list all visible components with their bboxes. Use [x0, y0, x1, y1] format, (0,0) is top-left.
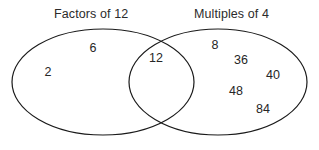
- venn-diagram: Factors of 12 Multiples of 4 62128364048…: [0, 0, 319, 150]
- venn-member-right-only-8: 8: [212, 38, 219, 52]
- set-label-left: Factors of 12: [54, 7, 128, 21]
- venn-member-right-only-48: 48: [229, 84, 243, 98]
- venn-member-right-only-84: 84: [256, 102, 270, 116]
- venn-member-right-only-36: 36: [234, 53, 248, 67]
- venn-member-left-only-2: 2: [45, 65, 52, 79]
- venn-member-left-only-6: 6: [90, 41, 97, 55]
- set-label-right: Multiples of 4: [194, 7, 269, 21]
- venn-member-intersection-12: 12: [149, 51, 163, 65]
- set-ellipse-left: [12, 29, 194, 135]
- venn-member-right-only-40: 40: [266, 68, 280, 82]
